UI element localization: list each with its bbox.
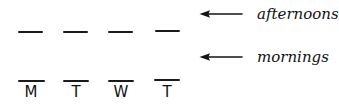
weekday-label-monday: M — [18, 85, 44, 100]
afternoons-mark — [18, 31, 43, 33]
mornings-mark — [18, 80, 45, 82]
annotation-label-mornings: mornings — [257, 50, 329, 65]
weekday-label-thursday: T — [154, 85, 180, 100]
afternoons-mark — [108, 31, 133, 33]
mornings-mark — [154, 79, 180, 81]
annotation-mornings: mornings — [199, 49, 329, 65]
weekday-label-tuesday: T — [63, 85, 89, 100]
afternoons-mark — [155, 30, 180, 32]
mornings-mark — [108, 80, 134, 82]
left-arrow-icon — [199, 6, 243, 22]
left-arrow-icon — [199, 49, 243, 65]
afternoons-mark — [63, 31, 88, 33]
handwritten-schedule-figure: M T W T afternoons mornings — [0, 0, 339, 105]
annotation-label-afternoons: afternoons — [257, 7, 339, 22]
mornings-mark — [63, 80, 89, 82]
annotation-afternoons: afternoons — [199, 6, 339, 22]
weekday-label-wednesday: W — [108, 85, 134, 100]
